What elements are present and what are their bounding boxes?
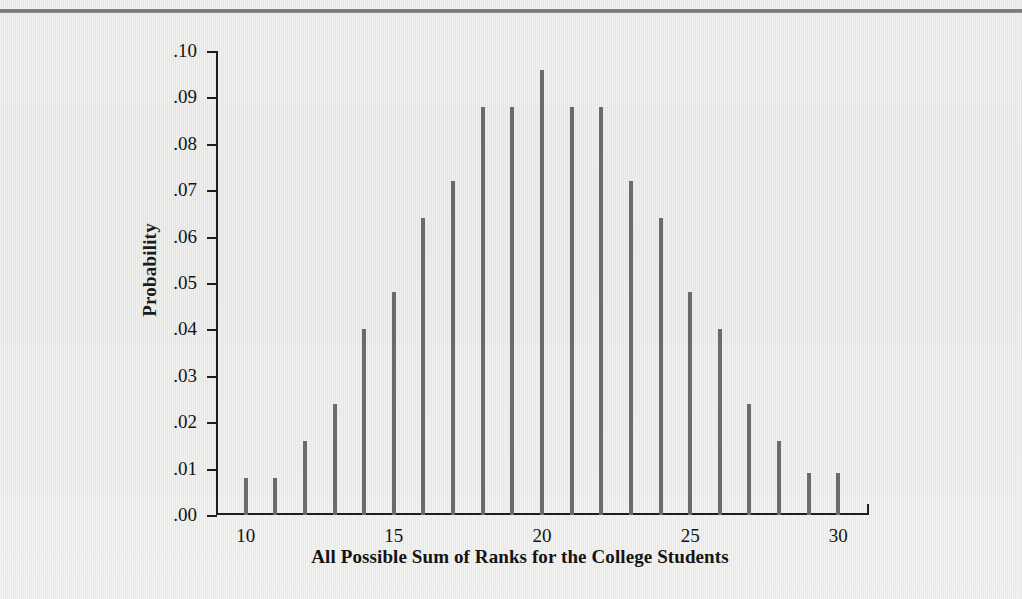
x-tick-label: 30 xyxy=(829,525,848,547)
x-axis-label: All Possible Sum of Ranks for the Colleg… xyxy=(216,546,824,568)
bar xyxy=(718,329,722,515)
bar xyxy=(688,292,692,515)
y-tick: .06 xyxy=(207,237,217,239)
y-tick-label: .02 xyxy=(173,411,197,433)
bar xyxy=(333,404,337,515)
x-tick-label: 10 xyxy=(236,525,255,547)
y-tick: .10 xyxy=(207,51,217,53)
y-axis-label: Probability xyxy=(130,0,170,540)
y-tick-label: .08 xyxy=(173,132,197,154)
y-tick-label: .10 xyxy=(173,40,197,62)
y-tick: .05 xyxy=(207,283,217,285)
bar xyxy=(392,292,396,515)
bar xyxy=(303,441,307,515)
bar xyxy=(244,478,248,515)
bar xyxy=(599,107,603,515)
bar xyxy=(481,107,485,515)
bar xyxy=(747,404,751,515)
bar xyxy=(540,70,544,515)
bar xyxy=(629,181,633,515)
bar xyxy=(510,107,514,515)
y-tick: .09 xyxy=(207,97,217,99)
y-tick: .01 xyxy=(207,469,217,471)
y-axis-label-text: Probability xyxy=(139,223,161,317)
bar xyxy=(777,441,781,515)
bar xyxy=(836,473,840,515)
bar xyxy=(451,181,455,515)
y-tick-label: .00 xyxy=(173,504,197,526)
bar xyxy=(273,478,277,515)
x-tick-label: 15 xyxy=(384,525,403,547)
y-tick-label: .04 xyxy=(173,318,197,340)
y-tick: .07 xyxy=(207,190,217,192)
y-tick-label: .03 xyxy=(173,364,197,386)
y-tick: .00 xyxy=(207,515,217,517)
x-tick-label: 20 xyxy=(533,525,552,547)
y-tick-label: .05 xyxy=(173,272,197,294)
y-tick: .03 xyxy=(207,376,217,378)
probability-distribution-figure: Probability .00.01.02.03.04.05.06.07.08.… xyxy=(0,0,1022,599)
x-tick xyxy=(867,504,869,515)
bar xyxy=(807,473,811,515)
y-tick-label: .01 xyxy=(173,457,197,479)
y-tick-label: .06 xyxy=(173,225,197,247)
plot-area: .00.01.02.03.04.05.06.07.08.09.10 101520… xyxy=(216,51,868,515)
y-tick: .04 xyxy=(207,329,217,331)
y-tick: .02 xyxy=(207,422,217,424)
y-tick: .08 xyxy=(207,144,217,146)
x-tick-label: 25 xyxy=(681,525,700,547)
y-tick-label: .09 xyxy=(173,86,197,108)
bar xyxy=(570,107,574,515)
bar xyxy=(659,218,663,515)
y-tick-label: .07 xyxy=(173,179,197,201)
bar xyxy=(362,329,366,515)
bar xyxy=(421,218,425,515)
